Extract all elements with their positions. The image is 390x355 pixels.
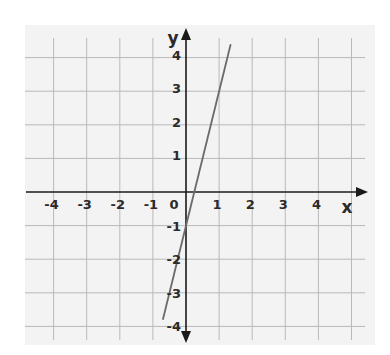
plot-background	[25, 25, 375, 345]
y-tick-label: 3	[172, 81, 181, 96]
y-tick-label: -2	[167, 252, 181, 267]
y-tick-label: -4	[167, 319, 181, 334]
x-tick-label: 4	[312, 197, 321, 212]
x-tick-label: 2	[246, 197, 255, 212]
y-tick-label: -1	[167, 219, 181, 234]
chart-canvas: -4-3-2-101234-4-3-2-11234xy	[0, 0, 390, 355]
x-axis-label: x	[342, 197, 353, 217]
x-tick-label: 0	[169, 197, 178, 212]
y-tick-label: -3	[167, 286, 181, 301]
coordinate-plane-chart: -4-3-2-101234-4-3-2-11234xy	[0, 0, 390, 355]
y-tick-label: 2	[172, 115, 181, 130]
y-axis-label: y	[167, 28, 178, 48]
x-tick-label: -4	[44, 197, 58, 212]
x-tick-label: 1	[213, 197, 222, 212]
x-tick-label: -2	[111, 197, 125, 212]
x-tick-label: -3	[77, 197, 91, 212]
y-tick-label: 1	[172, 148, 181, 163]
y-tick-label: 4	[172, 48, 181, 63]
x-tick-label: 3	[279, 197, 288, 212]
x-tick-label: -1	[144, 197, 158, 212]
